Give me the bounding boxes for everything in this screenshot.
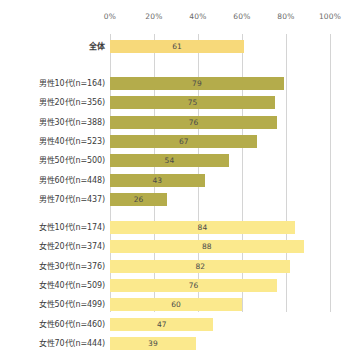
- bar-track: 54: [110, 154, 330, 167]
- bar-track: 61: [110, 40, 330, 53]
- x-tick-40pct: 40%: [189, 12, 206, 21]
- x-tick-20pct: 20%: [145, 12, 162, 21]
- bar-value-label: 84: [198, 221, 208, 234]
- bar-row: 女性30代(n=376)82: [0, 260, 356, 273]
- bar-value-label: 54: [165, 154, 175, 167]
- bar-row: 男性50代(n=500)54: [0, 154, 356, 167]
- bar-value-label: 61: [172, 40, 182, 53]
- bar-value-label: 75: [188, 96, 198, 109]
- bar-track: 67: [110, 135, 330, 148]
- bar-row: 男性10代(n=164)79: [0, 77, 356, 90]
- bar-row: 女性60代(n=460)47: [0, 318, 356, 331]
- bar-row-label: 女性70代(n=444): [39, 337, 105, 350]
- bar-row-label: 男性40代(n=523): [39, 135, 105, 148]
- bar-track: 39: [110, 337, 330, 350]
- bar-row: 男性20代(n=356)75: [0, 96, 356, 109]
- bar-row: 女性70代(n=444)39: [0, 337, 356, 350]
- bar-track: 82: [110, 260, 330, 273]
- bar-value-label: 26: [134, 193, 144, 206]
- bar-row: 全体61: [0, 40, 356, 53]
- bar-row-label: 男性20代(n=356): [39, 96, 105, 109]
- bar-row: 男性70代(n=437)26: [0, 193, 356, 206]
- bar-row: 女性50代(n=499)60: [0, 298, 356, 311]
- bar-row-label: 男性30代(n=388): [39, 116, 105, 129]
- bar-value-label: 76: [189, 116, 199, 129]
- x-tick-0pct: 0%: [104, 12, 116, 21]
- bar-row-label: 女性50代(n=499): [39, 298, 105, 311]
- x-tick-80pct: 80%: [277, 12, 294, 21]
- x-tick-100pct: 100%: [319, 12, 341, 21]
- bar-track: 84: [110, 221, 330, 234]
- bar-track: 76: [110, 279, 330, 292]
- bar-value-label: 47: [157, 318, 167, 331]
- bar-value-label: 43: [153, 174, 163, 187]
- bar-value-label: 39: [148, 337, 158, 350]
- bar-value-label: 76: [189, 279, 199, 292]
- bar-row: 男性40代(n=523)67: [0, 135, 356, 148]
- bar-value-label: 60: [171, 298, 181, 311]
- bar-value-label: 82: [195, 260, 205, 273]
- bar-row-label: 女性20代(n=374): [39, 240, 105, 253]
- bar-row: 女性20代(n=374)88: [0, 240, 356, 253]
- bar-value-label: 88: [202, 240, 212, 253]
- bar-track: 75: [110, 96, 330, 109]
- bar-row-label: 男性70代(n=437): [39, 193, 105, 206]
- bar-track: 47: [110, 318, 330, 331]
- bar-row-label: 男性60代(n=448): [39, 174, 105, 187]
- bar-row-label: 女性60代(n=460): [39, 318, 105, 331]
- bar-row: 女性10代(n=174)84: [0, 221, 356, 234]
- bar-row-label: 女性40代(n=509): [39, 279, 105, 292]
- bar-row: 男性30代(n=388)76: [0, 116, 356, 129]
- bar-row: 男性60代(n=448)43: [0, 174, 356, 187]
- bar-row-label: 全体: [89, 40, 105, 53]
- bar-row-label: 男性10代(n=164): [39, 77, 105, 90]
- bar-track: 43: [110, 174, 330, 187]
- bar-track: 88: [110, 240, 330, 253]
- bar-track: 60: [110, 298, 330, 311]
- bar-row-label: 男性50代(n=500): [39, 154, 105, 167]
- bar-value-label: 67: [179, 135, 189, 148]
- bar-row: 女性40代(n=509)76: [0, 279, 356, 292]
- bar-row-label: 女性30代(n=376): [39, 260, 105, 273]
- bar-track: 26: [110, 193, 330, 206]
- bar-track: 76: [110, 116, 330, 129]
- bar-track: 79: [110, 77, 330, 90]
- x-tick-60pct: 60%: [233, 12, 250, 21]
- bar-value-label: 79: [192, 77, 202, 90]
- bar-row-label: 女性10代(n=174): [39, 221, 105, 234]
